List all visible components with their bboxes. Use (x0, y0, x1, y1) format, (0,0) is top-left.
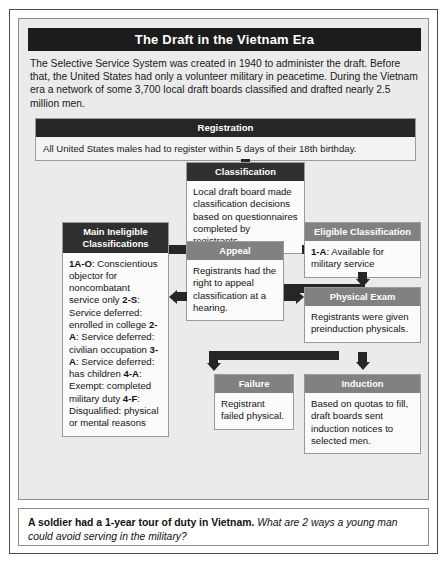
connector-physical-to-failure-horizontal (209, 351, 339, 360)
connector-eligible-to-physical-arrowhead (356, 279, 370, 287)
figure-caption: A soldier had a 1-year tour of duty in V… (18, 508, 429, 546)
classification-code: 2-S (122, 294, 137, 305)
classification-item: 1A-O: Conscientious objector for noncomb… (69, 258, 158, 306)
classification-code: 4-F (123, 393, 137, 404)
node-induction-text: Based on quotas to fill, draft boards se… (305, 393, 420, 453)
registration-text: All United States males had to register … (36, 137, 415, 160)
figure-page: The Draft in the Vietnam Era The Selecti… (0, 0, 447, 563)
registration-header: Registration (36, 119, 415, 137)
node-failure-text: Registrant failed physical. (215, 393, 293, 429)
diagram-panel: The Draft in the Vietnam Era The Selecti… (18, 18, 429, 500)
figure-title: The Draft in the Vietnam Era (135, 32, 314, 47)
node-appeal-text: Registrants had the right to appeal clas… (187, 260, 283, 320)
node-induction-header: Induction (305, 375, 420, 393)
node-eligible-classification: Eligible Classification 1-A: Available f… (304, 222, 421, 278)
node-ineligible-header-line1: Main Ineligible (65, 226, 166, 238)
classification-code: 1A-O (69, 258, 92, 269)
connector-appeal-to-physical-arrowhead (296, 290, 304, 304)
connector-appeal-to-ineligible-stem (177, 292, 187, 301)
registration-block: Registration All United States males had… (35, 118, 416, 161)
node-appeal: Appeal Registrants had the right to appe… (186, 241, 284, 321)
node-ineligible-header: Main Ineligible Classifications (63, 223, 168, 253)
figure-outer-frame: The Draft in the Vietnam Era The Selecti… (9, 9, 438, 554)
connector-appeal-to-physical-stem (284, 292, 296, 301)
node-main-ineligible-classifications: Main Ineligible Classifications 1A-O: Co… (62, 222, 169, 437)
connector-physical-to-failure-arrowhead (207, 363, 221, 371)
node-ineligible-list: 1A-O: Conscientious objector for noncomb… (63, 253, 168, 436)
node-physical-text: Registrants were given preinduction phys… (305, 306, 420, 342)
figure-title-bar: The Draft in the Vietnam Era (28, 28, 421, 51)
node-eligible-code: 1-A (311, 246, 326, 257)
connector-physical-to-induction-arrowhead (356, 362, 370, 370)
node-failure-header: Failure (215, 375, 293, 393)
node-physical-exam: Physical Exam Registrants were given pre… (304, 287, 421, 343)
caption-lead: A soldier had a 1-year tour of duty in V… (28, 517, 254, 528)
node-classification-header: Classification (187, 163, 304, 181)
classification-code: 4-A (123, 368, 138, 379)
node-eligible-header: Eligible Classification (305, 223, 420, 241)
figure-intro-text: The Selective Service System was created… (30, 57, 420, 110)
node-ineligible-header-line2: Classifications (65, 238, 166, 250)
connector-appeal-to-ineligible-arrowhead (169, 290, 177, 304)
node-appeal-header: Appeal (187, 242, 283, 260)
node-failure: Failure Registrant failed physical. (214, 374, 294, 430)
classification-text: : Service deferred: civilian occupation (69, 331, 154, 354)
node-physical-header: Physical Exam (305, 288, 420, 306)
node-induction: Induction Based on quotas to fill, draft… (304, 374, 421, 454)
